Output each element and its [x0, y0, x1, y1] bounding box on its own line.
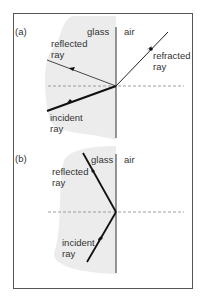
air-label-b: air: [124, 155, 135, 165]
incident-ray-label-b: ray: [62, 249, 75, 259]
incident-arrow-dot-b: [99, 236, 102, 239]
refraction-diagram: (a) glass air reflected ray refracted ra…: [0, 0, 201, 297]
incident-label-a: incident: [50, 113, 83, 123]
reflected-ray-label-b: ray: [52, 178, 65, 188]
reflected-label-b: reflected: [52, 167, 88, 177]
reflected-arrow-dot-b: [91, 169, 94, 172]
incident-ray-label-a: ray: [50, 124, 63, 134]
glass-label-b: glass: [91, 155, 113, 165]
incident-label-b: incident: [62, 238, 95, 248]
air-label-a: air: [124, 27, 135, 37]
reflected-label-a: reflected: [51, 39, 87, 49]
panel-b-label: (b): [15, 154, 27, 164]
diagram-graphics: [0, 0, 201, 297]
glass-label-a: glass: [87, 27, 109, 37]
reflected-ray-label-a: ray: [51, 50, 64, 60]
panel-a-label: (a): [15, 27, 27, 37]
refracted-ray-label-a: ray: [153, 62, 166, 72]
refracted-label-a: refracted: [153, 51, 191, 61]
